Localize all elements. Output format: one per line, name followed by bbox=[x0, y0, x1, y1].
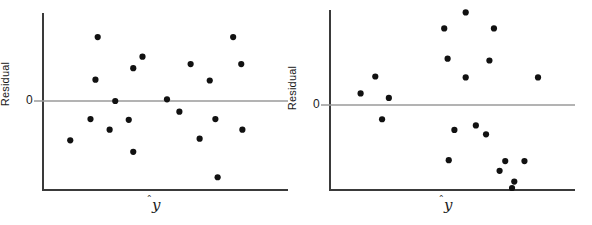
data-point bbox=[386, 95, 392, 101]
y-hat-base-left: y bbox=[152, 196, 160, 214]
data-point bbox=[164, 96, 170, 102]
data-point bbox=[176, 109, 182, 115]
data-point bbox=[372, 73, 378, 79]
data-point bbox=[207, 77, 213, 83]
data-point bbox=[445, 56, 451, 62]
data-point bbox=[521, 158, 527, 164]
x-axis-label-right: ̂ y bbox=[444, 196, 452, 214]
data-point bbox=[92, 77, 98, 83]
y-axis-label-left: Residual bbox=[0, 62, 11, 106]
residual-plots-figure: Residual 0 ̂ y Residual 0 ̂ y bbox=[0, 0, 592, 225]
data-point bbox=[67, 137, 73, 143]
data-point bbox=[502, 158, 508, 164]
data-point bbox=[473, 122, 479, 128]
y-axis-zero-tick-left: 0 bbox=[26, 93, 33, 107]
data-point bbox=[230, 34, 236, 40]
data-point bbox=[95, 34, 101, 40]
data-point bbox=[215, 174, 221, 180]
data-point bbox=[496, 168, 502, 174]
y-axis-zero-tick-right: 0 bbox=[313, 97, 320, 111]
data-point bbox=[139, 54, 145, 60]
data-point bbox=[491, 25, 497, 31]
scatter-plot-right bbox=[296, 0, 592, 225]
data-point bbox=[188, 61, 194, 67]
data-point bbox=[130, 65, 136, 71]
y-hat-base-right: y bbox=[444, 196, 452, 214]
data-point bbox=[486, 57, 492, 63]
data-point bbox=[239, 127, 245, 133]
data-point bbox=[238, 61, 244, 67]
scatter-plot-left bbox=[0, 0, 296, 225]
data-point bbox=[463, 9, 469, 15]
data-point bbox=[509, 185, 515, 191]
data-point bbox=[107, 127, 113, 133]
scatter-panel-right: Residual 0 ̂ y bbox=[296, 0, 592, 225]
data-point bbox=[483, 131, 489, 137]
data-point bbox=[535, 74, 541, 80]
data-point bbox=[446, 157, 452, 163]
data-point bbox=[441, 25, 447, 31]
data-point bbox=[358, 90, 364, 96]
y-axis-label-right: Residual bbox=[286, 66, 298, 110]
data-point bbox=[511, 178, 517, 184]
data-point bbox=[197, 136, 203, 142]
data-point bbox=[130, 149, 136, 155]
data-point bbox=[463, 74, 469, 80]
data-point bbox=[112, 98, 118, 104]
data-point bbox=[451, 127, 457, 133]
data-point bbox=[87, 116, 93, 122]
data-point bbox=[126, 117, 132, 123]
data-point bbox=[379, 116, 385, 122]
x-axis-label-left: ̂ y bbox=[152, 196, 160, 214]
data-point bbox=[212, 116, 218, 122]
scatter-panel-left: Residual 0 ̂ y bbox=[0, 0, 296, 225]
